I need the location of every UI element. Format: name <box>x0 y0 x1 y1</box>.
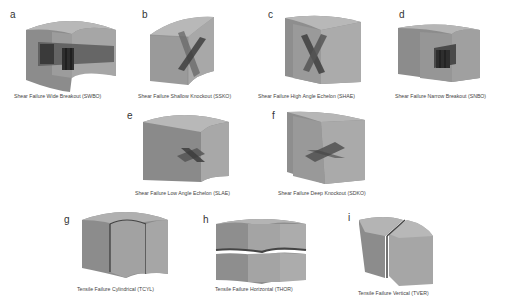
caption: Tensile Failure Horizontal (THOR) <box>215 286 293 292</box>
cutoff-caption-text <box>70 296 510 301</box>
panel-letter: e <box>127 110 133 121</box>
block-cylindrical-fracture-icon <box>82 210 170 282</box>
panel-letter: g <box>64 214 70 225</box>
block-high-angle-echelon-icon <box>285 16 365 86</box>
block-wide-breakout-icon <box>22 18 132 88</box>
panel-letter: f <box>272 110 275 121</box>
block-shallow-knockout-icon <box>148 15 218 87</box>
block-low-angle-echelon-icon <box>143 114 233 182</box>
panel-letter: a <box>10 9 16 20</box>
caption: Shear Failure High Angle Echelon (SHAE) <box>258 93 355 99</box>
caption: Shear Failure Narrow Breakout (SNBO) <box>395 93 486 99</box>
block-deep-knockout-icon <box>287 112 367 184</box>
panel-letter: c <box>268 9 273 20</box>
block-horizontal-fracture-icon <box>216 216 308 286</box>
panel-letter: b <box>142 9 148 20</box>
block-narrow-breakout-icon <box>398 24 483 82</box>
block-vertical-fracture-icon <box>359 216 435 288</box>
caption: Shear Failure Wide Breakout (SWBO) <box>14 93 101 99</box>
caption: Shear Failure Low Angle Echelon (SLAE) <box>135 190 230 196</box>
caption: Tensile Failure Cylindrical (TCYL) <box>77 286 154 292</box>
caption: Shear Failure Shallow Knockout (SSKO) <box>138 93 231 99</box>
panel-letter: h <box>203 214 209 225</box>
caption: Shear Failure Deep Knockout (SDKO) <box>278 190 366 196</box>
panel-letter: i <box>348 212 350 223</box>
panel-letter: d <box>399 9 405 20</box>
